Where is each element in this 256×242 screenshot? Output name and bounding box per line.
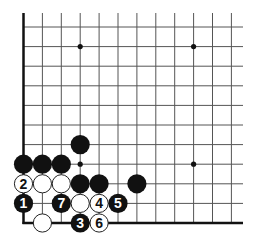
star-point: [191, 44, 196, 49]
move-number: 2: [20, 176, 28, 192]
move-number: 3: [76, 215, 84, 231]
go-board-diagram: 2174536: [0, 0, 256, 242]
move-number: 7: [57, 195, 65, 211]
black-stone: [127, 174, 146, 193]
white-stone: [33, 214, 51, 232]
black-stone: [14, 155, 33, 174]
white-stone-2: 2: [14, 175, 32, 193]
star-point: [78, 162, 83, 167]
black-stone: [90, 174, 109, 193]
move-number: 5: [114, 195, 122, 211]
white-stone: [71, 194, 89, 212]
black-stone: [71, 174, 90, 193]
black-stone-1: 1: [14, 194, 33, 213]
black-stone-5: 5: [108, 194, 127, 213]
move-number: 1: [20, 195, 28, 211]
move-number: 6: [95, 215, 103, 231]
white-stone: [52, 175, 70, 193]
black-stone-3: 3: [71, 213, 90, 232]
move-number: 4: [95, 195, 103, 211]
black-stone-7: 7: [52, 194, 71, 213]
white-stone-6: 6: [90, 214, 108, 232]
black-stone: [52, 155, 71, 174]
white-stone-4: 4: [90, 194, 108, 212]
star-point: [191, 162, 196, 167]
star-point: [78, 44, 83, 49]
white-stone: [33, 175, 51, 193]
black-stone: [71, 135, 90, 154]
black-stone: [33, 155, 52, 174]
